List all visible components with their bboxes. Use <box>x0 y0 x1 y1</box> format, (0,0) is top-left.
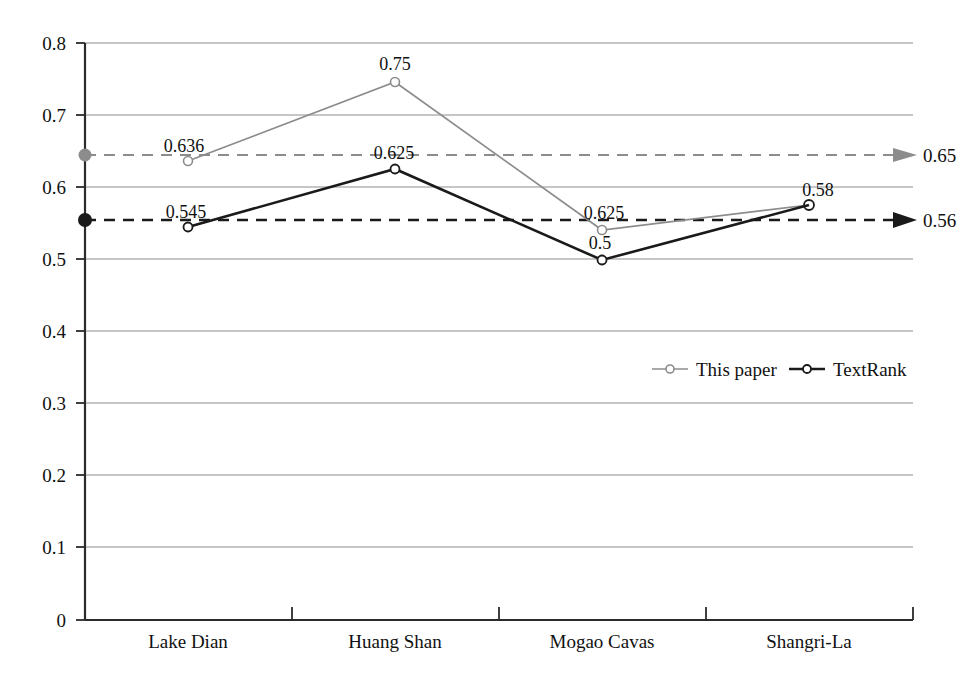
data-point <box>598 256 607 265</box>
y-tick-label: 0.4 <box>42 321 66 342</box>
legend-entry-textrank: TextRank <box>789 359 907 380</box>
y-tick-label: 0 <box>57 610 67 631</box>
data-point-label: 0.58 <box>802 180 834 200</box>
reference-line-0.65: 0.65 <box>79 145 957 166</box>
y-tickmarks <box>76 43 85 620</box>
reference-arrowhead <box>893 212 917 228</box>
x-axis-labels: Lake Dian Huang Shan Mogao Cavas Shangri… <box>148 631 852 652</box>
legend-label: This paper <box>696 359 777 380</box>
data-point-label: 0.625 <box>374 143 415 163</box>
data-point <box>391 78 400 87</box>
y-tick-label: 0.5 <box>42 249 66 270</box>
y-tick-label: 0.7 <box>42 105 66 126</box>
x-tick-label-lake-dian: Lake Dian <box>148 631 228 652</box>
legend-label: TextRank <box>833 359 907 380</box>
series-line <box>188 169 809 260</box>
legend-marker-icon <box>666 365 674 373</box>
data-point <box>184 223 193 232</box>
series-this-paper: 0.636 0.75 0.625 0.58 <box>164 54 834 235</box>
reference-value-label: 0.56 <box>923 210 956 231</box>
x-tick-label-shangri-la: Shangri-La <box>766 631 852 652</box>
gridlines <box>85 43 913 547</box>
x-tick-label-mogao-cavas: Mogao Cavas <box>549 631 654 652</box>
x-tick-label-huang-shan: Huang Shan <box>348 631 442 652</box>
reference-value-label: 0.65 <box>923 145 956 166</box>
series-textrank: 0.545 0.625 0.5 <box>166 143 809 265</box>
data-point-label: 0.75 <box>379 54 411 74</box>
y-tick-label: 0.2 <box>42 465 66 486</box>
legend-entry-this-paper: This paper <box>652 359 777 380</box>
legend-marker-icon <box>803 365 811 373</box>
y-axis-labels: 0.8 0.7 0.6 0.5 0.4 0.3 0.2 0.1 0 <box>42 33 66 631</box>
data-point-label: 0.636 <box>164 136 205 156</box>
data-point-label: 0.545 <box>166 202 207 222</box>
y-tick-label: 0.8 <box>42 33 66 54</box>
data-point-label: 0.625 <box>584 203 625 223</box>
line-chart: 0.8 0.7 0.6 0.5 0.4 0.3 0.2 0.1 0 Lake D… <box>0 0 967 688</box>
y-tick-label: 0.1 <box>42 537 66 558</box>
chart-canvas: 0.8 0.7 0.6 0.5 0.4 0.3 0.2 0.1 0 Lake D… <box>0 0 967 688</box>
y-tick-label: 0.6 <box>42 177 66 198</box>
reference-origin-marker <box>78 213 92 227</box>
x-tickmarks <box>292 607 913 620</box>
data-point <box>391 165 400 174</box>
reference-origin-marker <box>79 149 92 162</box>
reference-arrowhead <box>893 148 917 162</box>
chart-legend: This paper TextRank <box>652 359 907 380</box>
data-point <box>184 157 193 166</box>
data-point-label: 0.5 <box>589 233 612 253</box>
y-tick-label: 0.3 <box>42 393 66 414</box>
